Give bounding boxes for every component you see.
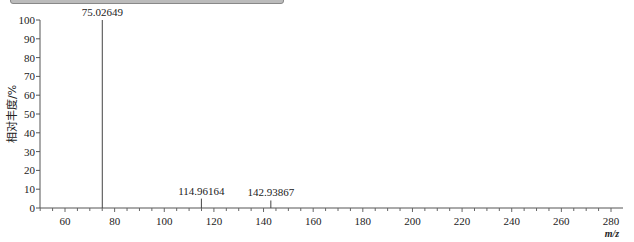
- peaks: 75.02649114.96164142.93867: [82, 6, 295, 208]
- x-tick-label: 100: [156, 215, 173, 227]
- y-axis-label: 相对丰度/%: [5, 85, 19, 143]
- peak-label: 114.96164: [178, 185, 225, 197]
- y-tick-label: 40: [24, 127, 36, 139]
- x-axis-label: m/z: [605, 228, 620, 239]
- axes: 0102030405060708090100608010012014016018…: [19, 14, 624, 227]
- y-tick-label: 30: [24, 146, 36, 158]
- x-tick-label: 160: [305, 215, 322, 227]
- x-tick-label: 220: [454, 215, 471, 227]
- y-tick-label: 70: [24, 70, 36, 82]
- y-tick-label: 50: [24, 108, 36, 120]
- x-tick-label: 140: [255, 215, 272, 227]
- y-tick-label: 80: [24, 52, 36, 64]
- peak-label: 75.02649: [82, 6, 124, 18]
- y-tick-label: 10: [24, 183, 36, 195]
- mass-spectrum-chart: 0102030405060708090100608010012014016018…: [0, 0, 634, 242]
- y-tick-label: 100: [19, 14, 36, 26]
- x-tick-label: 60: [60, 215, 72, 227]
- x-tick-label: 280: [603, 215, 620, 227]
- x-tick-label: 80: [109, 215, 121, 227]
- y-tick-label: 20: [24, 164, 36, 176]
- y-tick-label: 60: [24, 89, 36, 101]
- peak-label: 142.93867: [247, 186, 294, 198]
- x-tick-label: 240: [503, 215, 520, 227]
- x-tick-label: 120: [206, 215, 223, 227]
- x-tick-label: 180: [355, 215, 372, 227]
- x-tick-label: 200: [404, 215, 421, 227]
- y-tick-label: 90: [24, 33, 36, 45]
- y-tick-label: 0: [30, 202, 36, 214]
- x-tick-label: 260: [553, 215, 570, 227]
